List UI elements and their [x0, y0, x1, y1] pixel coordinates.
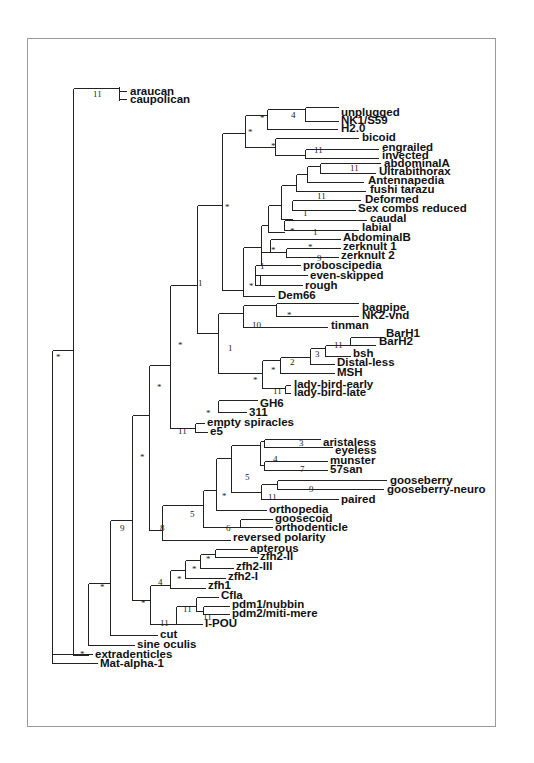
support-value: 10 — [252, 320, 262, 330]
support-value: 6 — [226, 523, 231, 533]
support-value: * — [249, 281, 254, 291]
leaf-labels: araucancaupolicanunpluggedNK1/S59H2.0bic… — [95, 85, 485, 669]
support-value: 11 — [314, 145, 323, 155]
support-value: 11 — [350, 163, 359, 173]
support-value: 11 — [268, 492, 277, 502]
support-value: * — [271, 365, 276, 375]
support-value: * — [100, 582, 105, 592]
leaf-label: tinman — [331, 319, 369, 331]
support-value: * — [225, 202, 230, 212]
leaf-label: Dem66 — [278, 289, 316, 301]
support-value: 1 — [260, 261, 265, 271]
phylogenetic-tree: 11**4***11111111**9*1**1101*1132**11**11… — [0, 0, 534, 763]
support-value: 1 — [228, 343, 233, 353]
support-value: * — [290, 226, 295, 236]
support-value: 5 — [190, 509, 195, 519]
support-value: 1 — [198, 278, 203, 288]
support-value: 7 — [300, 464, 305, 474]
support-value: 11 — [93, 89, 102, 99]
leaf-label: BarH2 — [379, 335, 413, 347]
leaf-label: pdm2/miti-mere — [232, 607, 318, 619]
leaf-label: zfh2-I — [228, 570, 258, 582]
support-value: * — [192, 564, 197, 574]
support-value: 11 — [183, 604, 192, 614]
support-value: * — [308, 242, 313, 252]
support-value: * — [260, 113, 265, 123]
leaf-label: MSH — [337, 366, 363, 378]
support-value: * — [287, 310, 292, 320]
support-value: 2 — [290, 357, 295, 367]
support-value: 4 — [273, 454, 278, 464]
support-value: * — [178, 340, 183, 350]
support-value: 4 — [291, 110, 296, 120]
support-value: * — [177, 574, 182, 584]
support-value: 11 — [160, 618, 169, 628]
support-value: * — [80, 649, 85, 659]
support-value: * — [222, 491, 227, 501]
support-value: 1 — [313, 227, 318, 237]
support-value: 5 — [245, 472, 250, 482]
leaf-label: gooseberry-neuro — [387, 483, 485, 495]
support-value: 11 — [178, 426, 187, 436]
support-value: * — [253, 375, 258, 385]
support-value: 4 — [158, 577, 163, 587]
leaf-label: NK2-vnd — [362, 309, 409, 321]
support-value: * — [248, 127, 253, 137]
support-value: * — [271, 245, 276, 255]
support-value: 11 — [334, 340, 343, 350]
support-value: * — [141, 598, 146, 608]
support-value: 9 — [120, 523, 125, 533]
leaf-label: I-POU — [205, 617, 237, 629]
leaf-label: lady-bird-late — [294, 386, 366, 398]
support-value: * — [157, 382, 162, 392]
leaf-label: paired — [341, 493, 376, 505]
support-value: 3 — [315, 349, 320, 359]
leaf-label: 57san — [330, 463, 363, 475]
leaf-label: caupolican — [130, 93, 190, 105]
support-value: * — [206, 554, 211, 564]
support-value: 11 — [317, 191, 326, 201]
leaf-label: e5 — [210, 425, 223, 437]
support-value: * — [271, 141, 276, 151]
support-value: 11 — [273, 386, 282, 396]
support-value: 8 — [160, 523, 165, 533]
leaf-label: Mat-alpha-1 — [100, 657, 165, 669]
support-value: 1 — [303, 208, 308, 218]
support-value: 9 — [309, 484, 314, 494]
support-value: 3 — [299, 438, 304, 448]
support-value: * — [140, 452, 145, 462]
support-value: * — [56, 352, 61, 362]
